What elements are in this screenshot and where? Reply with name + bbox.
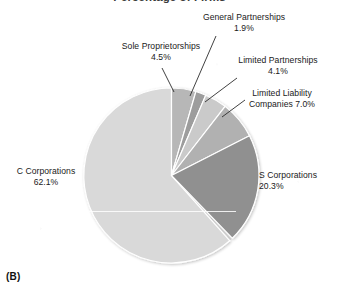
label-c-corporations-value: 62.1% (4, 177, 88, 188)
label-c-corporations: C Corporations 62.1% (4, 166, 88, 187)
label-limited-liability-name: Limited Liability (230, 88, 334, 99)
label-limited-liability-companies: Limited Liability Companies 7.0% (230, 88, 334, 109)
label-limited-partnerships: Limited Partnerships 4.1% (224, 55, 332, 76)
label-general-partnerships-value: 1.9% (186, 23, 302, 34)
label-sole-proprietorships-value: 4.5% (112, 52, 210, 63)
label-sole-proprietorships-name: Sole Proprietorships (112, 41, 210, 52)
label-general-partnerships-name: General Partnerships (186, 12, 302, 23)
pie-chart-figure: Percentage of Firms (0, 0, 339, 293)
label-s-corporations: S Corporations 20.3% (259, 170, 339, 191)
label-limited-partnerships-name: Limited Partnerships (224, 55, 332, 66)
label-c-corporations-name: C Corporations (4, 166, 88, 177)
label-s-corporations-name: S Corporations (259, 170, 339, 181)
label-limited-partnerships-value: 4.1% (224, 66, 332, 77)
pie-slices-group (84, 88, 259, 263)
label-limited-liability-value: Companies 7.0% (230, 99, 334, 110)
label-s-corporations-value: 20.3% (259, 181, 339, 192)
label-general-partnerships: General Partnerships 1.9% (186, 12, 302, 33)
panel-letter: (B) (6, 271, 20, 282)
label-sole-proprietorships: Sole Proprietorships 4.5% (112, 41, 210, 62)
